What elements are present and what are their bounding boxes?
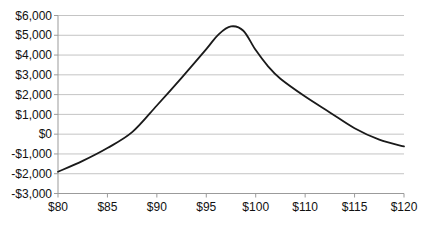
x-tick-label: $115 <box>342 200 368 214</box>
chart-container: $6,000$5,000$4,000$3,000$2,000$1,000$0-$… <box>0 0 430 229</box>
y-tick-label: $4,000 <box>15 48 52 62</box>
profit-curve-path <box>58 26 404 172</box>
y-tick-label: $2,000 <box>15 88 52 102</box>
x-tick-label: $95 <box>196 200 216 214</box>
x-tick-label: $100 <box>242 200 269 214</box>
x-tick-label: $80 <box>48 200 68 214</box>
line-chart: $6,000$5,000$4,000$3,000$2,000$1,000$0-$… <box>0 0 430 229</box>
y-tick-label: -$1,000 <box>11 147 52 161</box>
y-tick-label: $0 <box>39 127 53 141</box>
x-tick-label: $85 <box>97 200 117 214</box>
y-tick-label: $6,000 <box>15 9 52 23</box>
axes-group <box>58 16 404 194</box>
series-group <box>58 26 404 172</box>
y-tick-label: $5,000 <box>15 28 52 42</box>
y-tick-label: -$2,000 <box>11 167 52 181</box>
y-tick-label: $3,000 <box>15 68 52 82</box>
axis-ticks-group <box>54 16 404 198</box>
gridlines-group <box>58 16 404 174</box>
y-tick-label: $1,000 <box>15 108 52 122</box>
x-tick-label: $120 <box>391 200 418 214</box>
y-tick-label: -$3,000 <box>11 187 52 201</box>
x-tick-label: $90 <box>147 200 167 214</box>
x-tick-label: $110 <box>292 200 318 214</box>
